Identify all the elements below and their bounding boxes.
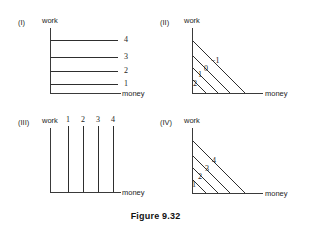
panel-3-x-axis-label: money [122, 188, 145, 197]
panel-4-label-3: 3 [205, 164, 209, 173]
figure-caption: Figure 9.32 [0, 211, 311, 221]
panel-4-curve-4 [193, 141, 245, 193]
panel-4-label-4: 4 [212, 156, 216, 165]
panel-2-label-minus-1: −1 [211, 56, 220, 65]
panel-4-x-axis-label: money [265, 189, 288, 198]
panel-4-label-1: 1 [192, 180, 196, 189]
panel-4-label-2: 2 [198, 172, 202, 181]
panel-1-label-4: 4 [124, 35, 128, 44]
panel-1-label-3: 3 [124, 52, 128, 61]
panel-3: (III) work 1 2 3 4 money [0, 103, 155, 210]
figure-container: (I) work 4 3 2 1 money (II) work [0, 0, 311, 230]
panel-4: (IV) work 4 3 2 1 money [155, 103, 311, 210]
panel-2-plot [155, 0, 311, 103]
panel-2-label-2: 2 [193, 79, 197, 88]
panel-1-x-axis-label: money [122, 89, 145, 98]
panel-1-label-1: 1 [124, 79, 128, 88]
panel-2-curve-minus-1 [193, 41, 245, 93]
panel-2-label-0: 0 [204, 64, 208, 73]
panel-2: (II) work −1 0 1 2 money [155, 0, 311, 103]
panel-2-label-1: 1 [198, 70, 202, 79]
panel-1: (I) work 4 3 2 1 money [0, 0, 155, 103]
panel-1-plot [0, 0, 155, 103]
panel-1-label-2: 2 [124, 66, 128, 75]
panel-2-x-axis-label: money [265, 89, 288, 98]
